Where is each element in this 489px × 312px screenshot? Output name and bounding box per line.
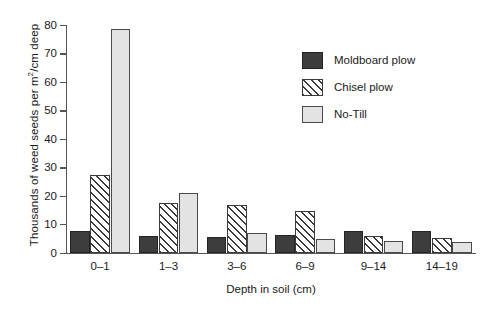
bar-group: 0–1 — [70, 26, 130, 253]
y-axis-tick-mark — [60, 82, 66, 83]
y-axis-tick-label: 70 — [44, 47, 57, 59]
y-axis-tick-mark — [60, 253, 66, 254]
y-axis-tick-mark — [60, 224, 66, 225]
bar-chisel-plow-14-19 — [432, 238, 452, 252]
bar-chisel-plow-9-14 — [364, 236, 384, 253]
legend-item: Moldboard plow — [302, 48, 415, 72]
y-axis-tick-label: 60 — [44, 76, 57, 88]
x-axis-title: Depth in soil (cm) — [66, 283, 476, 295]
legend-item: Chisel plow — [302, 75, 415, 99]
bar-chisel-plow-1-3 — [159, 203, 179, 253]
legend-swatch-no-till — [302, 106, 323, 123]
y-axis-line — [66, 25, 67, 254]
bar-chisel-plow-0-1 — [90, 175, 110, 253]
y-axis-tick-mark — [60, 25, 66, 26]
legend-swatch-chisel-plow — [302, 79, 323, 96]
x-axis-line — [66, 253, 476, 254]
y-axis-tick-label: 40 — [44, 133, 57, 145]
y-axis-tick-label: 30 — [44, 161, 57, 173]
bar-moldboard-plow-3-6 — [207, 237, 227, 253]
bar-no-till-9-14 — [384, 241, 404, 253]
x-axis-tick-label: 6–9 — [275, 260, 335, 272]
x-axis-tick-label: 9–14 — [344, 260, 404, 272]
y-axis-tick-mark — [60, 139, 66, 140]
bar-moldboard-plow-0-1 — [70, 231, 90, 253]
bar-moldboard-plow-1-3 — [139, 236, 159, 253]
y-axis-tick-mark — [60, 53, 66, 54]
y-axis-tick-label: 20 — [44, 190, 57, 202]
bar-no-till-14-19 — [452, 242, 472, 253]
chart-legend: Moldboard plowChisel plowNo-Till — [302, 48, 415, 129]
bar-moldboard-plow-14-19 — [412, 231, 432, 253]
y-axis-title: Thousands of weed seeds per m2/cm deep — [26, 10, 40, 260]
bar-no-till-3-6 — [247, 233, 267, 253]
y-axis-tick-mark — [60, 196, 66, 197]
bar-no-till-6-9 — [316, 239, 336, 252]
bar-group: 14–19 — [412, 26, 472, 253]
bar-chart-figure: Thousands of weed seeds per m2/cm deep 0… — [0, 0, 489, 312]
bar-group: 1–3 — [139, 26, 199, 253]
bar-no-till-1-3 — [179, 193, 199, 253]
x-axis-tick-label: 0–1 — [70, 260, 130, 272]
y-axis-tick-label: 80 — [44, 19, 57, 31]
legend-item: No-Till — [302, 102, 415, 126]
y-axis-tick-mark — [60, 110, 66, 111]
y-axis-title-pre: Thousands of weed seeds per m — [28, 76, 40, 246]
x-axis-tick-label: 1–3 — [139, 260, 199, 272]
y-axis-tick-label: 0 — [51, 247, 57, 259]
y-axis-tick-label: 10 — [44, 218, 57, 230]
y-axis-tick-mark — [60, 167, 66, 168]
x-axis-tick-label: 3–6 — [207, 260, 267, 272]
x-axis-tick-label: 14–19 — [412, 260, 472, 272]
legend-label: Moldboard plow — [334, 54, 415, 66]
bar-chisel-plow-3-6 — [227, 205, 247, 253]
bar-group: 3–6 — [207, 26, 267, 253]
bar-chisel-plow-6-9 — [295, 211, 315, 253]
y-axis-title-superscript: 2 — [26, 72, 35, 77]
y-axis-title-post: /cm deep — [28, 24, 40, 72]
bar-moldboard-plow-9-14 — [344, 231, 364, 252]
bar-moldboard-plow-6-9 — [275, 235, 295, 252]
bar-no-till-0-1 — [111, 29, 131, 252]
y-axis-tick-label: 50 — [44, 104, 57, 116]
legend-label: Chisel plow — [334, 81, 393, 93]
legend-swatch-moldboard-plow — [302, 52, 323, 69]
legend-label: No-Till — [334, 108, 367, 120]
